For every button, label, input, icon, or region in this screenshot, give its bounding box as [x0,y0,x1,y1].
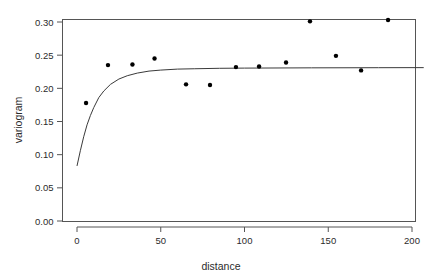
data-point [334,54,338,58]
data-point [284,60,288,64]
data-point [184,82,188,86]
data-point [359,68,363,72]
plot-frame [63,20,416,222]
x-axis-title: distance [201,260,240,272]
fitted-model-curve [77,68,424,166]
y-tick-label: 0.10 [35,149,54,160]
data-point [386,18,390,22]
data-point [257,64,261,68]
y-axis-ticks: 0.000.050.100.150.200.250.30 [35,17,62,227]
y-tick-label: 0.00 [35,216,54,227]
y-tick-label: 0.20 [35,83,54,94]
x-tick-label: 200 [404,235,420,246]
x-tick-label: 0 [74,235,79,246]
data-point [208,83,212,87]
data-point [152,56,156,60]
x-axis-ticks: 050100150200 [74,227,420,246]
y-tick-label: 0.15 [35,116,54,127]
x-tick-label: 100 [237,235,253,246]
empirical-variogram-points [84,18,390,105]
data-point [106,63,110,67]
data-point [308,19,312,23]
y-tick-label: 0.30 [35,17,54,28]
fitted-curve-path [77,68,424,166]
variogram-chart-figure: 050100150200 0.000.050.100.150.200.250.3… [0,0,442,280]
y-tick-label: 0.05 [35,182,54,193]
data-point [130,62,134,66]
data-point [84,101,88,105]
plot-border [63,20,416,222]
x-tick-label: 150 [320,235,336,246]
y-axis-title: variogram [12,96,24,143]
plot-canvas: 050100150200 0.000.050.100.150.200.250.3… [0,0,442,280]
data-point [234,65,238,69]
x-tick-label: 50 [155,235,166,246]
y-tick-label: 0.25 [35,50,54,61]
